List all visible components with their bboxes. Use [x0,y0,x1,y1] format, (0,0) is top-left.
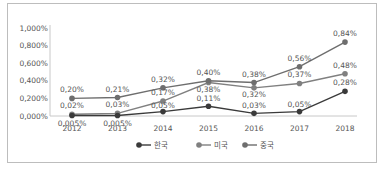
data-label: 0,32% [242,90,266,99]
data-point [251,80,257,86]
y-tick-label: 0,800% [19,41,48,50]
legend-marker [196,142,202,148]
legend-label: 한국 [154,141,168,150]
data-point [297,64,303,70]
data-point [251,111,257,117]
data-point [206,104,212,110]
legend-marker [242,142,248,148]
x-tick-label: 2017 [290,124,309,133]
data-label: 0,03% [242,101,266,110]
data-label: 0,56% [288,54,312,63]
data-label: 0,005% [58,119,87,128]
data-label: 0,38% [197,85,221,94]
data-label: 0,48% [333,61,357,70]
y-tick-label: 1,000% [19,24,48,33]
data-label: 0,11% [197,94,221,103]
y-tick-label: 0,400% [19,76,48,85]
x-tick-label: 2014 [153,124,172,133]
data-point [342,89,348,95]
data-label: 0,05% [151,101,175,110]
y-tick-label: 0,200% [19,94,48,103]
line-chart: 0,000%0,200%0,400%0,600%0,800%1,000%2012… [0,0,381,175]
data-point [297,81,303,87]
data-point [206,78,212,84]
data-label: 0,005% [103,119,132,128]
y-tick-label: 0,600% [19,59,48,68]
data-label: 0,28% [333,78,357,87]
data-point [342,39,348,45]
data-point [160,109,166,115]
data-label: 0,37% [288,70,312,79]
data-label: 0,20% [60,85,84,94]
data-point [115,113,121,119]
data-point [297,109,303,115]
data-label: 0,32% [151,75,175,84]
data-label: 0,84% [333,29,357,38]
data-label: 0,38% [242,70,266,79]
data-label: 0,17% [151,88,175,97]
data-label: 0,03% [106,100,130,109]
x-tick-label: 2018 [335,124,354,133]
data-label: 0,05% [288,100,312,109]
data-point [69,113,75,119]
data-label: 0,02% [60,101,84,110]
data-point [342,71,348,77]
legend-label: 중국 [260,141,274,150]
data-label: 0,21% [106,85,130,94]
data-label: 0,40% [197,68,221,77]
x-tick-label: 2015 [199,124,218,133]
legend-label: 미국 [214,141,228,150]
legend-marker [136,142,142,148]
x-tick-label: 2016 [244,124,263,133]
y-tick-label: 0,000% [19,112,48,121]
